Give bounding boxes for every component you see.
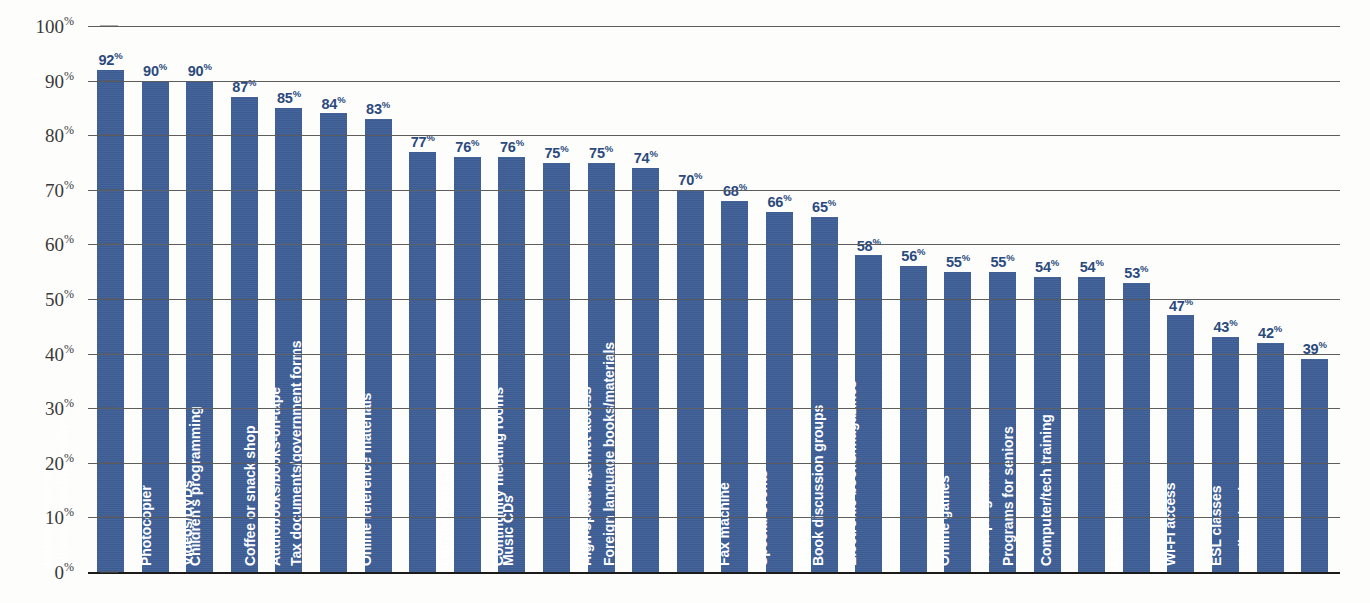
bar[interactable]: Tax documents/government forms (409, 152, 436, 572)
bar[interactable]: Movie showings (855, 255, 882, 572)
bar-value-label: 90% (188, 61, 212, 79)
bar-value-label: 76% (455, 137, 479, 155)
y-axis-tickmark-50 (100, 299, 118, 300)
gridline-70 (88, 190, 1340, 191)
y-axis-tickmark-30 (100, 408, 118, 409)
gridline-50 (88, 299, 1340, 300)
bar[interactable]: ESL classes (1257, 343, 1284, 572)
y-axis-tick-30: 30% (2, 397, 88, 420)
bar[interactable]: Music CDs (543, 163, 570, 573)
bar-value-label: 43% (1214, 317, 1238, 335)
gridline-0 (88, 572, 1340, 574)
bar-value-label: 66% (768, 192, 792, 210)
y-axis-tickmark-10 (100, 517, 118, 518)
bar-value-label: 70% (678, 170, 702, 188)
y-axis-tick-0: 0% (2, 560, 88, 583)
bar[interactable]: Videos/DVDs (231, 97, 258, 572)
gridline-10 (88, 517, 1340, 518)
bar[interactable]: High-speed Internet access (677, 190, 704, 572)
bar[interactable]: Library Web site (498, 157, 525, 572)
bar-value-label: 74% (634, 148, 658, 166)
bar[interactable]: Special events (811, 217, 838, 572)
bar[interactable]: Community meeting rooms (588, 163, 615, 573)
bar-value-label: 54% (1080, 257, 1104, 275)
bar-value-label: 92% (99, 50, 123, 68)
bar[interactable]: Children's programming (275, 108, 302, 572)
y-axis-tickmark-0 (100, 572, 118, 573)
y-axis-tickmark-40 (100, 353, 118, 354)
gridline-20 (88, 463, 1340, 464)
bar-chart: Internet access92%Newspapers/magazines90… (0, 0, 1370, 603)
bar-value-label: 42% (1258, 323, 1282, 341)
bar[interactable]: Photocopier (186, 81, 213, 572)
gridline-100 (88, 26, 1340, 27)
y-axis-tick-90: 90% (2, 69, 88, 92)
y-axis-tickmark-20 (100, 462, 118, 463)
bar-value-label: 90% (143, 61, 167, 79)
bar[interactable]: Teen programs (1034, 277, 1061, 572)
bar-value-label: 75% (589, 143, 613, 161)
bar[interactable]: Online catalog (632, 168, 659, 572)
y-axis-tick-20: 20% (2, 451, 88, 474)
gridline-60 (88, 244, 1340, 245)
bar[interactable]: Foreign language books/materials (721, 201, 748, 572)
bar-value-label: 83% (366, 99, 390, 117)
bar-value-label: 55% (946, 252, 970, 270)
y-axis-tick-50: 50% (2, 287, 88, 310)
bar[interactable]: Programs for seniors (1078, 277, 1105, 572)
bar[interactable]: Audiobooks/books-on-tape (365, 119, 392, 572)
gridline-30 (88, 408, 1340, 409)
bar-value-label: 84% (322, 94, 346, 112)
y-axis-tick-40: 40% (2, 342, 88, 365)
y-axis-tick-100: 100% (2, 14, 88, 37)
y-axis-tick-10: 10% (2, 506, 88, 529)
bar-category-label: Newspapers/magazines (50, 410, 77, 566)
y-axis-tickmark-60 (100, 244, 118, 245)
bar[interactable]: Book discussion groups (900, 266, 927, 572)
bar-value-label: 65% (812, 197, 836, 215)
plot-area: Internet access92%Newspapers/magazines90… (88, 26, 1340, 572)
gridline-40 (88, 354, 1340, 355)
bar[interactable]: Coffee or snack shop (320, 113, 347, 572)
bar[interactable]: Online reference materials (454, 157, 481, 572)
y-axis-tickmark-80 (100, 135, 118, 136)
bar[interactable]: Wi-Fi access (1212, 337, 1239, 572)
y-axis-tickmark-100 (100, 26, 118, 27)
bar-value-label: 76% (500, 137, 524, 155)
bar-value-label: 53% (1124, 263, 1148, 281)
gridline-80 (88, 135, 1340, 136)
y-axis-tick-60: 60% (2, 233, 88, 256)
bar-value-label: 54% (1035, 257, 1059, 275)
bar[interactable]: Internet access (97, 70, 124, 572)
bar-value-label: 85% (277, 88, 301, 106)
bar-value-label: 75% (545, 143, 569, 161)
bar[interactable]: Computer/tech training (1123, 283, 1150, 572)
figure-caption (120, 586, 820, 602)
bar[interactable]: Online games (989, 272, 1016, 572)
bar[interactable]: Online databases (1301, 359, 1328, 572)
y-axis-tickmark-70 (100, 189, 118, 190)
bar[interactable]: Electronic books/magazines (944, 272, 971, 572)
gridline-90 (88, 81, 1340, 82)
bar-value-label: 56% (901, 246, 925, 264)
bar[interactable]: Newspapers/magazines (142, 81, 169, 572)
y-axis-tick-70: 70% (2, 178, 88, 201)
y-axis-tick-80: 80% (2, 124, 88, 147)
bar-value-label: 55% (991, 252, 1015, 270)
y-axis-tickmark-90 (100, 80, 118, 81)
